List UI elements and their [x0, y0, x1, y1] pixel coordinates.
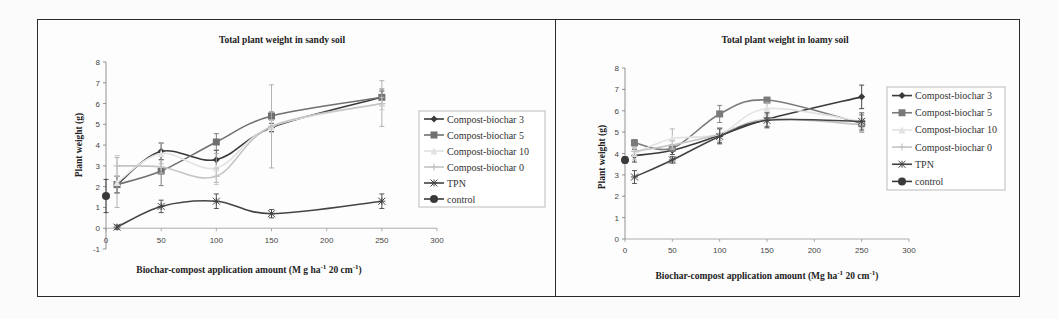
x-tick-label: 250 — [855, 246, 869, 255]
legend-label: control — [447, 194, 476, 205]
legend-control-marker-icon — [430, 195, 438, 203]
chart-loamy-soil: Total plant weight in loamy soil Plant w… — [597, 35, 1005, 282]
y-axis-label: Plant weight (g) — [74, 113, 85, 177]
compost-biochar-5-marker-icon — [213, 138, 220, 145]
y-tick-label: 6 — [615, 107, 620, 116]
y-tick-label: 5 — [615, 128, 620, 137]
control-marker-icon — [621, 156, 629, 164]
y-tick-label: 4 — [615, 150, 620, 159]
legend-label: TPN — [447, 178, 466, 189]
axes: 012345678050100150200250300 — [615, 64, 917, 255]
legend-label: Compost-biochar 5 — [447, 130, 524, 141]
tpn-marker-icon — [268, 210, 275, 217]
plot-area — [621, 85, 865, 183]
tpn-marker-icon — [669, 156, 676, 163]
legend-label: control — [915, 176, 944, 187]
tpn-marker-icon — [378, 198, 385, 205]
y-tick-label: 0 — [96, 224, 101, 233]
compost-biochar-0-marker-icon — [114, 162, 121, 169]
x-tick-label: 250 — [375, 236, 389, 245]
y-tick-label: 6 — [96, 100, 101, 109]
compost-biochar-3-marker-icon — [858, 93, 865, 100]
x-tick-label: 150 — [265, 236, 279, 245]
tpn-marker-icon — [764, 117, 771, 124]
x-tick-label: 0 — [623, 246, 628, 255]
figure-canvas: Total plant weight in sandy soil Plant w… — [0, 0, 1058, 319]
legend-label: Compost-biochar 0 — [915, 142, 992, 153]
legend-box — [887, 87, 1005, 190]
chart-title: Total plant weight in sandy soil — [219, 35, 345, 45]
y-axis-label: Plant weight (g) — [597, 125, 608, 189]
y-tick-label: 5 — [96, 120, 101, 129]
legend-compost-biochar-5-marker-icon — [431, 132, 438, 139]
legend-label: Compost-biochar 3 — [447, 114, 524, 125]
series-compost-biochar-10 — [114, 81, 386, 208]
chart-sandy-soil: Total plant weight in sandy soil Plant w… — [74, 35, 545, 276]
y-tick-label: -1 — [93, 245, 101, 254]
tpn-marker-icon — [158, 203, 165, 210]
control-marker-icon — [102, 192, 110, 200]
legend-label: Compost-biochar 5 — [915, 107, 992, 118]
legend-label: Compost-biochar 0 — [447, 162, 524, 173]
y-tick-label: 8 — [96, 58, 101, 67]
y-tick-label: 0 — [615, 235, 620, 244]
compost-biochar-5-marker-icon — [716, 110, 723, 117]
legend-control-marker-icon — [898, 177, 906, 185]
x-tick-label: 200 — [320, 236, 334, 245]
legend-label: Compost-biochar 10 — [915, 124, 997, 135]
series-tpn — [631, 113, 865, 184]
x-tick-label: 200 — [808, 246, 822, 255]
legend-label: TPN — [915, 159, 934, 170]
tpn-marker-icon — [114, 224, 121, 231]
y-tick-label: 2 — [615, 192, 620, 201]
compost-biochar-0-marker-icon — [213, 173, 220, 180]
tpn-marker-icon — [858, 118, 865, 125]
legend-label: Compost-biochar 10 — [447, 146, 529, 157]
y-tick-label: 7 — [96, 79, 101, 88]
tpn-marker-icon — [716, 133, 723, 140]
x-tick-label: 0 — [104, 236, 109, 245]
plot-area — [102, 81, 385, 231]
y-tick-label: 3 — [615, 171, 620, 180]
tpn-marker-icon — [213, 198, 220, 205]
series-control — [621, 156, 629, 164]
legend: Compost-biochar 3Compost-biochar 5Compos… — [419, 111, 545, 207]
y-tick-label: 1 — [615, 214, 620, 223]
y-tick-label: 7 — [615, 85, 620, 94]
legend-label: Compost-biochar 3 — [915, 90, 992, 101]
x-tick-label: 50 — [157, 236, 166, 245]
compost-biochar-5-marker-icon — [631, 139, 638, 146]
x-tick-label: 300 — [902, 246, 916, 255]
legend-compost-biochar-5-marker-icon — [899, 109, 906, 116]
axes: -1012345678050100150200250300 — [93, 58, 444, 254]
y-tick-label: 3 — [96, 162, 101, 171]
legend-tpn-marker-icon — [899, 161, 906, 168]
y-tick-label: 8 — [615, 64, 620, 73]
legend-box — [419, 111, 545, 207]
x-tick-label: 100 — [713, 246, 727, 255]
legend: Compost-biochar 3Compost-biochar 5Compos… — [887, 87, 1005, 190]
y-tick-label: 2 — [96, 183, 101, 192]
x-tick-label: 150 — [760, 246, 774, 255]
x-tick-label: 300 — [430, 236, 444, 245]
y-tick-label: 1 — [96, 203, 101, 212]
chart-title: Total plant weight in loamy soil — [721, 35, 848, 45]
x-tick-label: 100 — [210, 236, 224, 245]
y-tick-label: 4 — [96, 141, 101, 150]
x-axis-label: Biochar-compost application amount (M g … — [136, 263, 361, 276]
series-tpn — [114, 194, 386, 231]
x-axis-label: Biochar-compost application amount (Mg h… — [656, 269, 879, 282]
x-tick-label: 50 — [668, 246, 677, 255]
tpn-marker-icon — [631, 174, 638, 181]
legend-tpn-marker-icon — [431, 180, 438, 187]
